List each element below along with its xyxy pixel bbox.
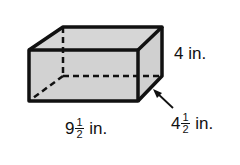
width-whole: 4 bbox=[171, 114, 180, 133]
prism-diagram bbox=[0, 0, 240, 165]
height-value: 4 bbox=[174, 44, 183, 63]
arrow-icon bbox=[153, 89, 173, 108]
length-fraction: 12 bbox=[75, 117, 83, 140]
width-label: 412 in. bbox=[171, 113, 213, 136]
height-label: 4 in. bbox=[174, 45, 206, 62]
width-fraction: 12 bbox=[181, 112, 189, 135]
length-label: 912 in. bbox=[65, 118, 107, 141]
length-whole: 9 bbox=[65, 119, 74, 138]
length-unit: in. bbox=[89, 119, 107, 138]
height-unit: in. bbox=[188, 44, 206, 63]
width-unit: in. bbox=[195, 114, 213, 133]
